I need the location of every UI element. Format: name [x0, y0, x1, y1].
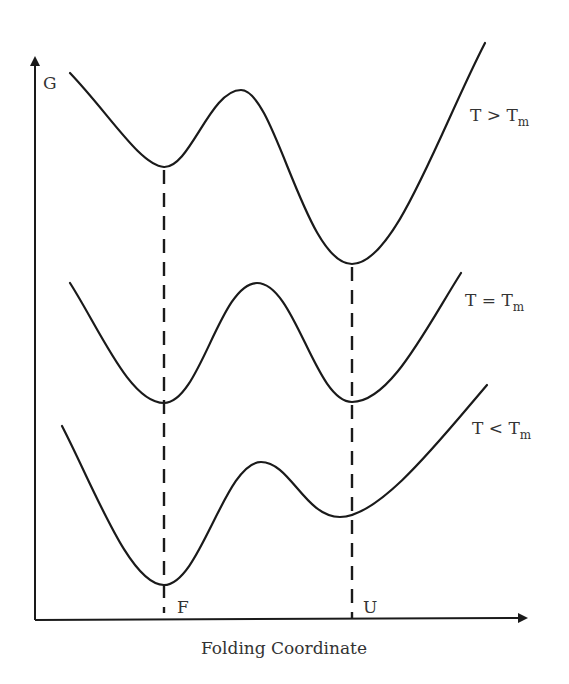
- y-axis-label: G: [43, 73, 57, 93]
- curve-t-above-tm: [70, 43, 485, 264]
- curve-label-t-above-tm: T > Tm: [470, 105, 530, 129]
- curve-label-t-equal-tm: T = Tm: [465, 290, 525, 314]
- curve-t-below-tm: [62, 385, 487, 585]
- curve-label-t-below-tm: T < Tm: [472, 418, 532, 442]
- curve-t-equal-tm: [70, 273, 461, 403]
- state-label-f: F: [177, 597, 189, 617]
- x-axis: [35, 618, 526, 620]
- x-axis-label: Folding Coordinate: [201, 638, 367, 658]
- state-label-u: U: [363, 597, 377, 617]
- energy-diagram: G Folding Coordinate F U T > Tm T = Tm T…: [0, 0, 569, 684]
